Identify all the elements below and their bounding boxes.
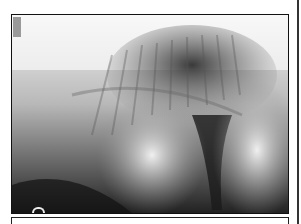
- caption-box: [11, 217, 289, 224]
- orientation-marker: [32, 207, 45, 214]
- radiograph-figure: [11, 14, 289, 214]
- corner-label: [13, 17, 21, 37]
- page-edge-rule: [297, 0, 299, 224]
- radiograph-image: [12, 15, 288, 213]
